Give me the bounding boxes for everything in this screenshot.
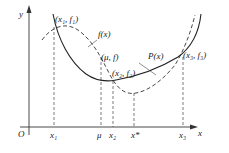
tick-x2: x₂	[109, 131, 116, 140]
y-axis-arrow-icon	[27, 5, 32, 13]
tick-mu: μ	[97, 131, 102, 140]
point-x1-f1: (x₁, f₁)	[55, 15, 78, 24]
x-axis-arrow-icon	[190, 125, 198, 130]
point-mu-f: (μ, f)	[101, 53, 119, 62]
y-axis-label: y	[19, 10, 23, 19]
tick-xstar: x*	[131, 131, 140, 140]
point-x3-f3: (x₃, f₃)	[183, 51, 206, 60]
point-x2-f2: (x₂, f₂)	[112, 69, 135, 78]
x-axis-label: x	[198, 129, 202, 138]
origin-label: O	[18, 130, 25, 139]
f-label-leader	[88, 40, 97, 47]
f-curve-label: f(x)	[98, 30, 111, 39]
tick-x1: x₁	[50, 131, 57, 140]
tick-x3: x₃	[179, 131, 186, 140]
p-curve-label: P(x)	[148, 52, 164, 61]
